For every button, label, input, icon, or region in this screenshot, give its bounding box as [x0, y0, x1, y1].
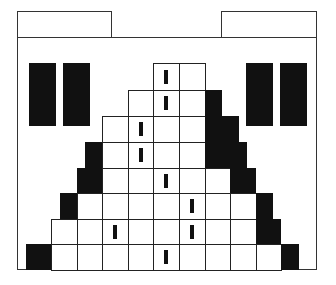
grid-cell[interactable] [77, 193, 103, 220]
black-block [205, 116, 239, 142]
tick-mark-icon [164, 70, 168, 84]
grid-cell[interactable] [230, 244, 257, 271]
black-block [281, 244, 299, 270]
grid-cell[interactable] [128, 168, 154, 194]
grid-cell[interactable] [128, 90, 154, 117]
left-bar-1 [29, 63, 56, 126]
grid-cell[interactable] [179, 90, 206, 117]
grid-cell[interactable] [153, 219, 180, 245]
grid-cell[interactable] [102, 168, 129, 194]
grid-cell[interactable] [256, 244, 282, 271]
right-tab[interactable] [221, 11, 317, 38]
grid-cell[interactable] [179, 168, 206, 194]
grid-cell[interactable] [153, 116, 180, 143]
grid-cell[interactable] [128, 219, 154, 245]
left-tab[interactable] [17, 11, 112, 38]
grid-cell[interactable] [179, 142, 206, 169]
black-block [205, 90, 222, 116]
black-block [85, 142, 102, 168]
grid-cell[interactable] [153, 142, 180, 169]
tick-mark-icon [164, 96, 168, 110]
grid-cell[interactable] [230, 193, 257, 220]
grid-cell[interactable] [102, 193, 129, 220]
black-block [60, 193, 77, 219]
black-block [26, 244, 51, 270]
black-block [230, 168, 256, 193]
black-block [256, 193, 273, 219]
tick-mark-icon [139, 122, 143, 136]
tick-mark-icon [164, 174, 168, 188]
tick-mark-icon [113, 225, 117, 239]
grid-cell[interactable] [205, 168, 231, 194]
grid-cell[interactable] [102, 244, 129, 271]
tick-mark-icon [164, 250, 168, 264]
grid-cell[interactable] [102, 142, 129, 169]
tick-mark-icon [190, 199, 194, 213]
grid-cell[interactable] [179, 244, 206, 271]
grid-cell[interactable] [51, 244, 78, 271]
grid-cell[interactable] [179, 63, 206, 91]
grid-cell[interactable] [205, 219, 231, 245]
grid-cell[interactable] [51, 219, 78, 245]
grid-cell[interactable] [230, 219, 257, 245]
grid-cell[interactable] [179, 116, 206, 143]
left-bar-2 [63, 63, 90, 126]
tick-mark-icon [139, 148, 143, 162]
grid-cell[interactable] [128, 244, 154, 271]
right-bar-2 [280, 63, 307, 126]
grid-cell[interactable] [102, 116, 129, 143]
grid-cell[interactable] [77, 244, 103, 271]
grid-cell[interactable] [128, 193, 154, 220]
black-block [77, 168, 102, 193]
grid-cell[interactable] [153, 193, 180, 220]
black-block [256, 219, 281, 244]
grid-cell[interactable] [205, 193, 231, 220]
right-bar-1 [246, 63, 273, 126]
tick-mark-icon [190, 225, 194, 239]
black-block [205, 142, 247, 168]
grid-cell[interactable] [77, 219, 103, 245]
grid-cell[interactable] [205, 244, 231, 271]
